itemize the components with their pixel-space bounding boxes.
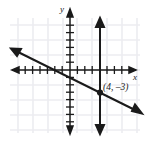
y-axis-label: y: [59, 4, 64, 14]
slanted-line-arrow-right: [132, 105, 142, 114]
vertical-line-graph: [96, 18, 104, 134]
background-grid: [10, 18, 140, 133]
x-axis: [12, 67, 136, 73]
vertical-line-arrow-down: [96, 125, 104, 134]
vertical-line-arrow-up: [96, 18, 104, 27]
point-coordinate-label: (4, –3): [103, 82, 128, 93]
x-axis-label: x: [132, 72, 137, 82]
x-axis-arrow-left: [12, 67, 19, 73]
y-axis-arrow-up: [67, 9, 73, 17]
coordinate-plane-svg: x y (4, –3): [0, 0, 151, 141]
y-axis-arrow-down: [67, 126, 73, 134]
graph-figure: x y (4, –3): [0, 0, 151, 141]
